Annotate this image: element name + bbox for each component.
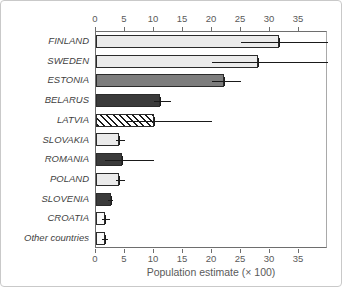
chart-container: Population estimate (× 100) FINLANDSWEDE… [0,0,342,287]
error-bar-line [154,101,171,102]
bar-row [96,229,326,249]
category-label: SLOVENIA [1,193,89,204]
bar-row [96,131,326,151]
error-bar-line [102,219,111,220]
bottom-axis-tick-label: 20 [199,253,223,264]
top-axis-tick [182,27,183,31]
category-label: SWEDEN [1,55,89,66]
error-bar-cap [119,136,120,145]
bar-row [96,170,326,190]
top-axis-tick [124,27,125,31]
bar-belarus [96,94,160,107]
bottom-axis-tick-label: 25 [228,253,252,264]
top-axis-tick [211,27,212,31]
category-label: ROMANIA [1,153,89,164]
error-bar-cap [258,58,259,67]
top-axis-tick-label: 20 [199,13,223,24]
error-bar-line [212,81,241,82]
error-bar-line [241,42,328,43]
top-axis-tick [153,27,154,31]
error-bar-cap [279,38,280,47]
bar-row [96,210,326,230]
bottom-axis-tick-label: 0 [83,253,107,264]
category-label: LATVIA [1,114,89,125]
error-bar-line [105,160,154,161]
top-axis-tick [240,27,241,31]
top-axis-tick-label: 35 [286,13,310,24]
error-bar-cap [154,117,155,126]
error-bar-cap [122,156,123,165]
category-label: FINLAND [1,35,89,46]
bar-row [96,150,326,170]
bottom-axis-tick-label: 35 [286,253,310,264]
top-axis-tick-label: 15 [170,13,194,24]
bar-row [96,190,326,210]
top-axis-tick-label: 0 [83,13,107,24]
bar-row [96,71,326,91]
bar-row [96,111,326,131]
top-axis-tick [298,27,299,31]
top-axis-tick [95,27,96,31]
bottom-axis-tick-label: 30 [257,253,281,264]
bottom-axis-tick-label: 10 [141,253,165,264]
bottom-axis-tick-label: 5 [112,253,136,264]
top-axis-tick-label: 25 [228,13,252,24]
bar-row [96,52,326,72]
error-bar-line [116,140,125,141]
error-bar-cap [160,97,161,106]
error-bar-line [116,180,125,181]
category-label: BELARUS [1,94,89,105]
error-bar-cap [224,77,225,86]
bar-row [96,32,326,52]
bar-estonia [96,74,224,87]
x-axis-title: Population estimate (× 100) [95,266,327,278]
top-axis-tick-label: 10 [141,13,165,24]
top-axis-tick-label: 30 [257,13,281,24]
error-bar-cap [105,215,106,224]
category-label: CROATIA [1,212,89,223]
category-label: POLAND [1,173,89,184]
category-label: ESTONIA [1,74,89,85]
bar-row [96,91,326,111]
error-bar-line [125,121,212,122]
plot-area [95,31,327,248]
category-label: Other countries [1,232,89,243]
error-bar-cap [119,176,120,185]
error-bar-cap [111,196,112,205]
top-axis-tick [269,27,270,31]
category-label: SLOVAKIA [1,134,89,145]
error-bar-line [212,62,328,63]
error-bar-cap [105,235,106,244]
bottom-axis-tick-label: 15 [170,253,194,264]
top-axis-tick-label: 5 [112,13,136,24]
